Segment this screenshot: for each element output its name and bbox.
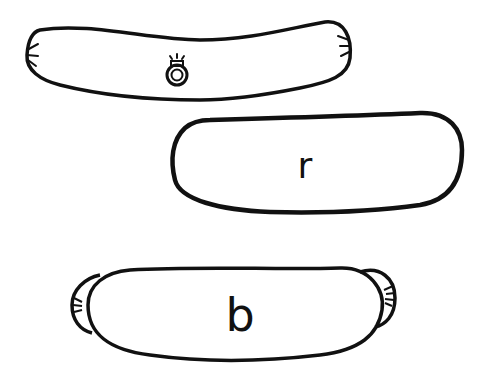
ring-icon: [167, 54, 187, 85]
sausage-shape: [27, 22, 350, 100]
bun-label: b: [220, 292, 260, 338]
roll-label: r: [290, 148, 320, 184]
